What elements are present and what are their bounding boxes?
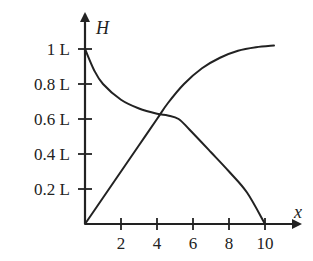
x-tick-label: 4 [153, 234, 162, 253]
y-tick-label: 0.4 L [34, 145, 70, 164]
x-tick-label: 10 [257, 234, 274, 253]
ticks: 2468100.2 L0.4 L0.6 L0.8 L1 L [34, 40, 273, 253]
y-tick-label: 0.6 L [34, 110, 70, 129]
x-tick-label: 2 [117, 234, 126, 253]
y-tick-label: 1 L [47, 40, 70, 59]
y-axis-label: H [95, 18, 110, 38]
chart: 2468100.2 L0.4 L0.6 L0.8 L1 L x H [0, 0, 313, 261]
x-tick-label: 8 [225, 234, 234, 253]
y-tick-label: 0.8 L [34, 75, 70, 94]
y-tick-label: 0.2 L [34, 180, 70, 199]
series [85, 46, 274, 225]
rising-curve-line [85, 46, 274, 225]
falling-curve-line [85, 49, 265, 224]
x-axis-label: x [293, 202, 302, 222]
x-tick-label: 6 [189, 234, 198, 253]
